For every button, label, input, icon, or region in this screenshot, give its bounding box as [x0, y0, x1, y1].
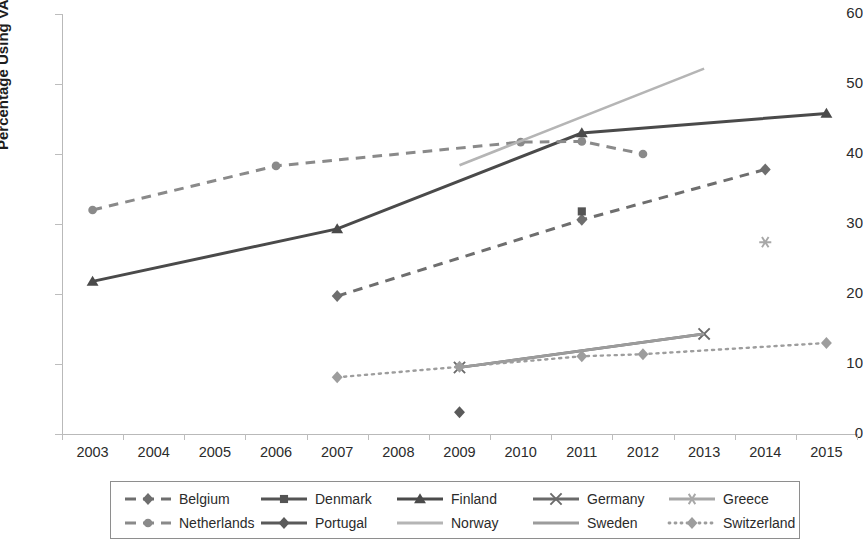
x-tick-label: 2003 [62, 444, 124, 460]
legend-label: Belgium [175, 491, 230, 507]
data-point [576, 127, 588, 137]
legend-item-belgium[interactable]: Belgium [121, 487, 257, 511]
x-tick-label: 2004 [123, 444, 185, 460]
legend-marker-icon [665, 514, 719, 532]
data-point [576, 214, 587, 226]
legend-marker-icon [665, 490, 719, 508]
legend-row-1: BelgiumDenmarkFinlandGermanyGreece [121, 487, 793, 511]
legend-label: Portugal [311, 515, 367, 531]
series-portugal [454, 406, 465, 418]
legend-item-netherlands[interactable]: Netherlands [121, 511, 257, 535]
series-germany [454, 328, 710, 373]
y-tick-mark [55, 364, 63, 365]
legend-item-denmark[interactable]: Denmark [257, 487, 393, 511]
legend-item-norway[interactable]: Norway [393, 511, 529, 535]
data-point [332, 371, 343, 383]
dashed-diamond-marker-icon [121, 490, 175, 508]
data-point [272, 162, 281, 171]
legend-item-switzerland[interactable]: Switzerland [665, 511, 801, 535]
series-plot [0, 0, 863, 543]
data-point [760, 163, 771, 175]
legend-label: Norway [447, 515, 498, 531]
x-tick-label: 2006 [245, 444, 307, 460]
legend-marker-icon [257, 514, 311, 532]
x-tick-mark [612, 434, 613, 440]
x-tick-mark [674, 434, 675, 440]
data-point [638, 348, 649, 360]
dashed-circle-marker-icon [121, 514, 175, 532]
legend-label: Denmark [311, 491, 372, 507]
legend-marker-icon [121, 514, 175, 532]
y-tick-label: 50 [817, 76, 863, 90]
data-point [331, 223, 343, 233]
legend-row-2: NetherlandsPortugalNorwaySwedenSwitzerla… [121, 511, 793, 535]
y-tick-label: 40 [817, 146, 863, 160]
series-line [460, 334, 705, 368]
legend-item-sweden[interactable]: Sweden [529, 511, 665, 535]
data-point [454, 361, 465, 373]
series-netherlands [88, 137, 647, 214]
x-tick-mark [796, 434, 797, 440]
x-tick-mark [551, 434, 552, 440]
solid-x-marker-icon [529, 490, 583, 508]
x-tick-label: 2012 [612, 444, 674, 460]
series-switzerland [332, 337, 832, 383]
x-tick-label: 2009 [429, 444, 491, 460]
x-tick-label: 2013 [673, 444, 735, 460]
legend-item-germany[interactable]: Germany [529, 487, 665, 511]
data-point [516, 138, 525, 147]
legend-marker-icon [529, 490, 583, 508]
series-belgium [332, 163, 771, 302]
data-point [577, 137, 586, 146]
data-point [454, 362, 465, 373]
series-finland [87, 108, 833, 286]
y-tick-mark [55, 294, 63, 295]
x-tick-label: 2008 [367, 444, 429, 460]
x-tick-mark [62, 434, 63, 440]
series-line [460, 69, 705, 166]
x-tick-mark [857, 434, 858, 440]
y-tick-mark [55, 84, 63, 85]
legend-item-greece[interactable]: Greece [665, 487, 801, 511]
x-tick-mark [307, 434, 308, 440]
data-point [332, 290, 343, 302]
legend-marker-icon [257, 490, 311, 508]
x-tick-mark [245, 434, 246, 440]
y-tick-mark [55, 224, 63, 225]
solid-line-icon [393, 514, 447, 532]
y-tick-label: 20 [817, 286, 863, 300]
y-axis-title: Percentage Using VAA [0, 0, 11, 150]
legend-item-finland[interactable]: Finland [393, 487, 529, 511]
series-greece [759, 237, 771, 247]
data-point [820, 108, 832, 118]
x-tick-mark [123, 434, 124, 440]
x-tick-mark [490, 434, 491, 440]
x-axis-line [62, 434, 857, 435]
legend-label: Netherlands [175, 515, 255, 531]
data-point [821, 337, 832, 349]
series-line [93, 141, 643, 210]
solid-star-marker-icon [665, 490, 719, 508]
legend-item-portugal[interactable]: Portugal [257, 511, 393, 535]
series-line [337, 169, 765, 296]
chart-legend: BelgiumDenmarkFinlandGermanyGreece Nethe… [110, 481, 800, 539]
series-norway [460, 69, 705, 166]
legend-label: Sweden [583, 515, 638, 531]
y-tick-label: 10 [817, 356, 863, 370]
data-point [759, 237, 771, 247]
solid-line-icon [529, 514, 583, 532]
series-line [460, 334, 705, 368]
legend-label: Greece [719, 491, 769, 507]
y-tick-mark [55, 154, 63, 155]
chart-figure: Percentage Using VAA 0102030405060 20032… [0, 0, 863, 543]
series-line [93, 113, 827, 281]
x-tick-label: 2010 [490, 444, 552, 460]
solid-square-marker-icon [257, 490, 311, 508]
data-point [88, 206, 97, 215]
y-tick-mark [55, 14, 63, 15]
x-tick-mark [184, 434, 185, 440]
series-denmark [578, 207, 586, 215]
legend-label: Germany [583, 491, 645, 507]
y-tick-label: 60 [817, 6, 863, 20]
solid-diamond-marker-icon [257, 514, 311, 532]
